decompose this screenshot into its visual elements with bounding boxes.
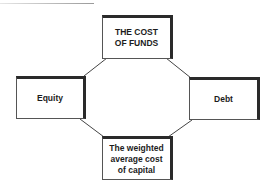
node-label: THE COST OF FUNDS [115,27,158,49]
connector-left-bottom [80,119,104,137]
node-label: The weighted average cost of capital [109,143,163,176]
node-equity: Equity [16,76,86,119]
connector-top-left [84,58,107,76]
node-weighted-average-cost-of-capital: The weighted average cost of capital [102,136,173,180]
node-cost-of-funds: THE COST OF FUNDS [102,15,173,59]
connector-right-bottom [168,120,192,137]
connector-top-right [166,58,191,78]
node-label: Debt [214,94,233,105]
node-label: Equity [37,93,63,104]
node-debt: Debt [189,77,260,120]
